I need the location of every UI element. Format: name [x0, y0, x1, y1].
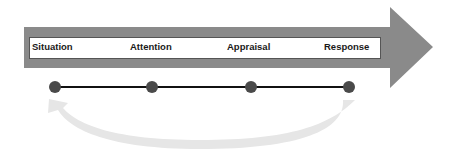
feedback-loop-arrow	[48, 99, 355, 149]
timeline	[49, 81, 355, 93]
timeline-dot-appraisal	[245, 81, 257, 93]
stage-label-situation: Situation	[32, 40, 73, 54]
stage-label-appraisal: Appraisal	[227, 40, 270, 54]
process-diagram	[0, 0, 453, 149]
stage-label-response: Response	[324, 40, 369, 54]
stage-label-attention: Attention	[130, 40, 172, 54]
timeline-dot-attention	[146, 81, 158, 93]
timeline-dot-response	[343, 81, 355, 93]
timeline-dot-situation	[49, 81, 61, 93]
